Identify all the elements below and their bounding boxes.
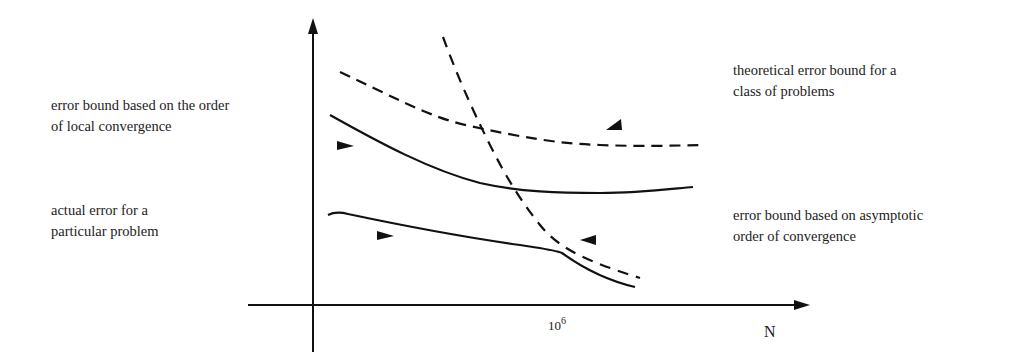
x-tick-exponent: 6 [561, 315, 566, 326]
x-tick-label: 106 [548, 316, 566, 334]
x-tick-base: 10 [548, 318, 561, 333]
annotation-local-order: error bound based on the order of local … [51, 95, 229, 137]
x-axis [248, 300, 810, 310]
annotation-actual-error: actual error for a particular problem [51, 200, 159, 242]
curve-local-order-error-bound [330, 115, 693, 193]
x-axis-label: N [764, 323, 776, 341]
curve-actual-error [328, 213, 635, 287]
error-bound-diagram [0, 0, 1011, 360]
pointer-arrow-asymptotic-icon [580, 235, 596, 245]
x-axis-arrow-icon [794, 300, 810, 310]
annotation-asymptotic: error bound based on asymptotic order of… [733, 205, 923, 247]
y-axis [308, 18, 318, 352]
curve-theoretical-error-bound [340, 72, 705, 146]
pointer-arrow-theoretical-icon [606, 119, 622, 130]
pointer-arrow-actual-icon [377, 231, 394, 240]
y-axis-arrow-icon [308, 18, 318, 34]
pointer-arrow-local-icon [337, 141, 354, 150]
curve-asymptotic-error-bound [443, 37, 640, 278]
annotation-theoretical: theoretical error bound for a class of p… [733, 60, 896, 102]
